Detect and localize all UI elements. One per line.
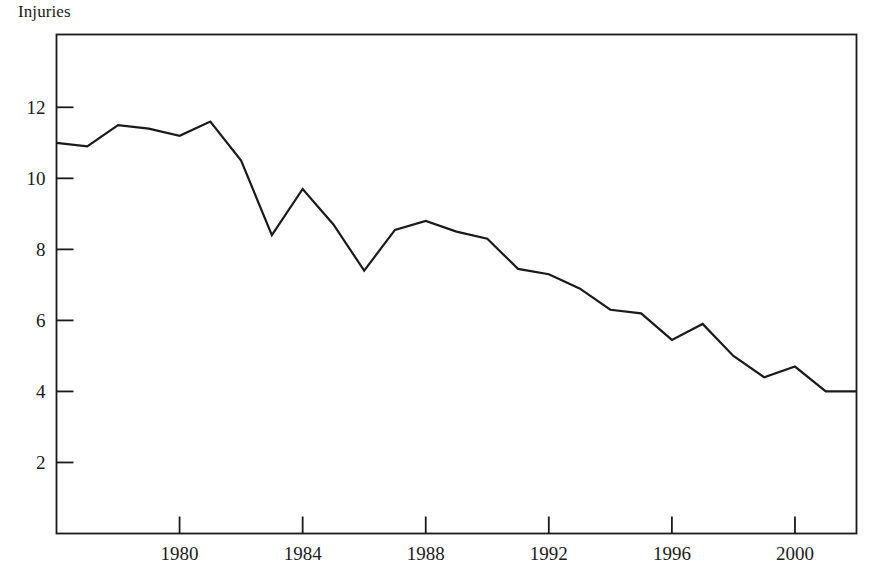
x-tick-label: 1984 — [284, 543, 323, 564]
y-tick-label: 12 — [27, 97, 46, 118]
line-chart-plot: 24681012 198019841988199219962000 — [0, 0, 875, 583]
plot-frame — [57, 35, 857, 534]
y-tick-label: 6 — [36, 310, 46, 331]
data-line — [57, 122, 857, 392]
x-tick-label: 1980 — [161, 543, 199, 564]
y-axis-ticks: 24681012 — [27, 97, 74, 473]
y-tick-label: 10 — [27, 168, 46, 189]
x-tick-label: 1988 — [407, 543, 445, 564]
y-tick-label: 4 — [36, 381, 46, 402]
y-tick-label: 2 — [36, 452, 46, 473]
x-tick-label: 2000 — [776, 543, 814, 564]
chart-figure: Injuries 24681012 1980198419881992199620… — [0, 0, 875, 583]
x-tick-label: 1992 — [530, 543, 568, 564]
y-tick-label: 8 — [36, 239, 46, 260]
x-axis-ticks: 198019841988199219962000 — [161, 517, 814, 564]
x-tick-label: 1996 — [653, 543, 691, 564]
data-series-group — [57, 122, 857, 392]
